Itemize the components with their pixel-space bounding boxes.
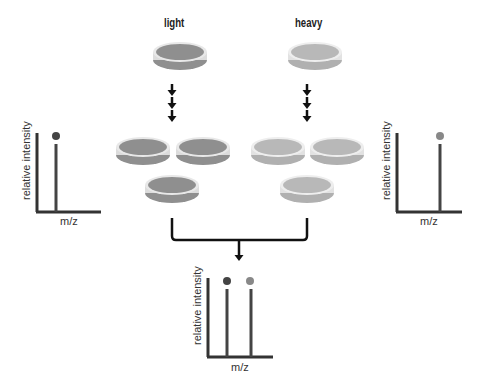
left-ylabel: relative intensity <box>20 121 32 200</box>
petri-dish-light-3 <box>145 175 199 203</box>
spectrum-light: relative intensity m/z <box>20 121 101 227</box>
merge-bracket <box>172 218 307 240</box>
left-xlabel: m/z <box>60 215 78 227</box>
petri-dish-light-top <box>153 42 207 70</box>
arrow-merge <box>235 240 244 261</box>
right-xlabel: m/z <box>420 215 438 227</box>
heavy-peak-dot <box>436 132 444 140</box>
combined-heavy-dot <box>246 277 254 285</box>
bottom-ylabel: relative intensity <box>191 266 203 345</box>
petri-dish-heavy-2 <box>310 137 364 165</box>
arrows-light <box>168 84 177 122</box>
light-peak-dot <box>52 132 60 140</box>
spectrum-heavy: relative intensity m/z <box>380 121 462 227</box>
spectrum-combined: relative intensity m/z <box>191 266 273 373</box>
bottom-xlabel: m/z <box>231 361 249 373</box>
combined-light-dot <box>223 277 231 285</box>
right-ylabel: relative intensity <box>380 121 392 200</box>
arrows-heavy <box>303 84 312 122</box>
petri-dish-heavy-3 <box>280 175 334 203</box>
petri-dish-light-2 <box>176 137 230 165</box>
silac-diagram: relative intensity m/z relative intensit… <box>0 0 481 391</box>
petri-dish-heavy-top <box>288 42 342 70</box>
petri-dish-heavy-1 <box>251 137 305 165</box>
petri-dish-light-1 <box>116 137 170 165</box>
